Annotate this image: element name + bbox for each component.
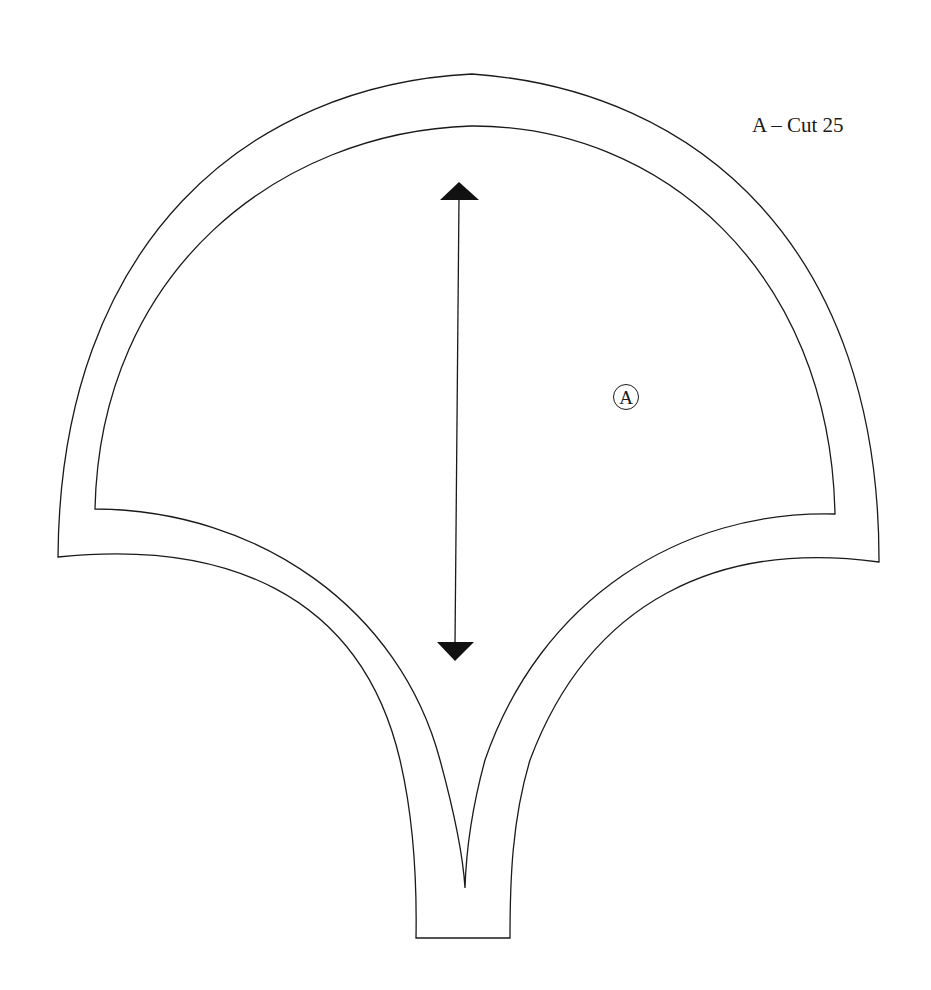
inner-sewing-line (95, 126, 835, 888)
piece-letter-circle: A (613, 384, 639, 410)
outer-cutting-line (58, 74, 879, 938)
cut-instruction-label: A – Cut 25 (752, 113, 844, 138)
grainline-arrow-icon (437, 182, 479, 661)
quilt-template-diagram (0, 0, 931, 990)
